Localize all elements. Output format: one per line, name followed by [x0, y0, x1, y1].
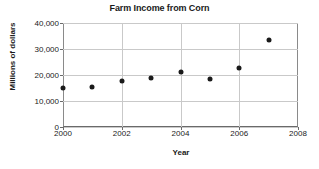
data-point	[149, 76, 154, 81]
x-tick-label: 2008	[289, 129, 307, 138]
data-point	[178, 70, 183, 75]
x-axis-title: Year	[63, 148, 299, 157]
x-tick-label: 2006	[230, 129, 248, 138]
x-tick-label: 2002	[113, 129, 131, 138]
x-tick-mark	[298, 127, 299, 130]
data-point	[207, 77, 212, 82]
gridline-vertical	[181, 23, 182, 127]
data-point	[266, 37, 271, 42]
y-tick-label: 10,000	[35, 97, 59, 106]
y-axis-title: Millions of dollars	[8, 7, 17, 107]
x-tick-mark	[239, 127, 240, 130]
gridline-vertical	[122, 23, 123, 127]
chart-container: Farm Income from Corn Millions of dollar…	[0, 0, 319, 169]
x-tick-mark	[63, 127, 64, 130]
x-tick-label: 2004	[172, 129, 190, 138]
y-tick-mark	[60, 23, 63, 24]
x-tick-mark	[122, 127, 123, 130]
y-tick-mark	[60, 49, 63, 50]
data-point	[237, 65, 242, 70]
data-point	[90, 84, 95, 89]
chart-title: Farm Income from Corn	[0, 3, 319, 13]
y-tick-label: 20,000	[35, 71, 59, 80]
data-point	[119, 78, 124, 83]
y-tick-label: 30,000	[35, 45, 59, 54]
x-tick-label: 2000	[54, 129, 72, 138]
plot-area: 010,00020,00030,00040,000 20002002200420…	[63, 23, 298, 127]
data-point	[61, 86, 66, 91]
x-tick-mark	[181, 127, 182, 130]
y-tick-mark	[60, 75, 63, 76]
y-tick-label: 40,000	[35, 19, 59, 28]
y-tick-mark	[60, 101, 63, 102]
gridline-vertical	[239, 23, 240, 127]
